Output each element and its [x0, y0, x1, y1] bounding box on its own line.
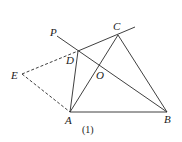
solid-lines [57, 27, 167, 112]
line-dc-extended [78, 27, 135, 51]
label-d: D [65, 54, 74, 66]
segment-ea [22, 74, 70, 112]
label-p: P [49, 26, 57, 38]
segment-cb [118, 35, 167, 112]
label-c: C [113, 20, 121, 32]
line-pb [57, 36, 167, 112]
label-e: E [10, 69, 18, 81]
figure-caption: (1) [82, 124, 94, 136]
geometry-figure: P C D E O A B (1) [0, 0, 182, 142]
label-o: O [96, 69, 104, 81]
label-a: A [64, 114, 72, 126]
point-labels: P C D E O A B [10, 20, 171, 126]
label-b: B [164, 113, 171, 125]
